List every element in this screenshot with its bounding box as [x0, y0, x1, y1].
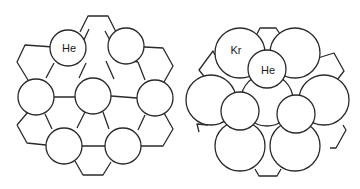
- he-label-right: He: [261, 64, 275, 76]
- he-atom: [75, 78, 111, 114]
- he-atom: [137, 80, 173, 116]
- diagram-canvas: He Kr He: [0, 0, 360, 189]
- he-atom: [221, 92, 259, 130]
- he-label-left: He: [62, 42, 76, 54]
- kr-label: Kr: [231, 44, 242, 56]
- he-atom: [46, 128, 82, 164]
- he-atom: [18, 79, 54, 115]
- left-panel-atoms: He: [18, 28, 173, 164]
- right-panel-atoms: Kr He: [186, 28, 349, 171]
- he-atom: [277, 95, 315, 133]
- he-atom: [108, 28, 144, 64]
- he-atom: [105, 128, 141, 164]
